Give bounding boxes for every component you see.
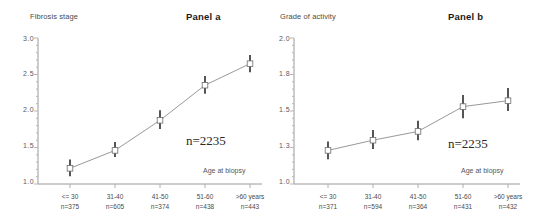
panel-b-xtick-4-category: >60 years	[478, 192, 535, 202]
panel-a-x-axis-caption: Age at biopsy	[203, 167, 245, 174]
panel-a-total-n: n=2235	[186, 133, 226, 149]
panel-b-plot	[268, 0, 535, 223]
panel-b-xtick-4-count: n=432	[478, 202, 535, 212]
panel-b: Grade of activity Panel b 2.0 1.8 1.5 1.…	[268, 0, 535, 223]
panel-a-y-ticks	[34, 38, 38, 184]
panel-a-x-ticks	[70, 184, 250, 188]
panel-b-xtick-4: >60 years n=432	[478, 192, 535, 211]
panel-b-x-ticks	[328, 184, 508, 188]
panel-a: Fibrosis stage Panel a 3.0 2.5 2.0 1.5 1…	[0, 0, 267, 223]
panel-b-y-ticks	[290, 38, 294, 184]
figure-container: Fibrosis stage Panel a 3.0 2.5 2.0 1.5 1…	[0, 0, 535, 223]
panel-a-plot	[0, 0, 267, 223]
panel-b-total-n: n=2235	[448, 136, 488, 152]
panel-b-x-axis-caption: Age at biopsy	[461, 167, 503, 174]
